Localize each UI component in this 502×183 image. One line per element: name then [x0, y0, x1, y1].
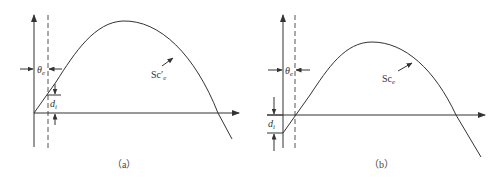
sc-pointer-b	[398, 63, 412, 71]
caption-a: （a）	[112, 159, 136, 170]
sc-pointer-a	[162, 58, 173, 66]
curve-sc-prime-e	[34, 21, 232, 139]
figure-canvas: θe di Sc′e （a） θe di Sce （b）	[0, 0, 502, 183]
di-label-a: di	[50, 98, 57, 111]
panel-b: θe di Sce （b）	[267, 15, 485, 170]
theta-label-a: θe	[37, 64, 45, 77]
curve-sc-e	[283, 42, 481, 157]
theta-label-b: θe	[285, 65, 293, 78]
caption-b: （b）	[369, 159, 394, 170]
panel-a: θe di Sc′e （a）	[20, 15, 239, 170]
di-label-b: di	[268, 118, 275, 131]
sc-label-b: Sce	[382, 73, 395, 86]
sc-label-a: Sc′e	[151, 69, 166, 82]
